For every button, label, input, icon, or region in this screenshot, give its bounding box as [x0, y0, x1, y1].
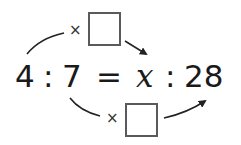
bottom-answer-box[interactable] [125, 103, 158, 137]
right-ratio-colon: : [165, 61, 175, 92]
top-answer-box[interactable] [88, 12, 121, 46]
left-ratio-colon: : [43, 61, 53, 92]
bottom-multiply-sign: × [106, 111, 119, 126]
left-ratio-first: 4 [15, 61, 35, 92]
left-ratio-second: 7 [62, 61, 82, 92]
bottom-arrow-icon [164, 101, 205, 118]
ratio-diagram: × 4 : 7 = x : 28 × [0, 0, 241, 145]
unknown-x: x [136, 61, 153, 92]
bottom-arc [70, 98, 100, 116]
right-ratio-second: 28 [184, 61, 223, 92]
top-arrow-icon [125, 41, 146, 54]
top-multiply-sign: × [69, 23, 82, 38]
top-arc [27, 33, 64, 54]
equals-sign: = [96, 61, 122, 92]
